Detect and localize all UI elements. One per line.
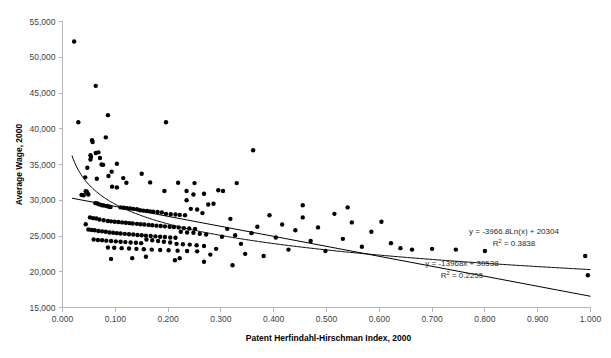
data-point	[168, 235, 172, 239]
data-point	[109, 169, 113, 173]
data-point	[139, 241, 143, 245]
x-tick-label: 0.500	[316, 314, 338, 324]
data-point	[350, 220, 354, 224]
data-point	[179, 230, 183, 234]
data-point	[135, 233, 139, 237]
data-point	[198, 232, 202, 236]
data-point	[280, 222, 284, 226]
data-point	[389, 241, 393, 245]
data-point	[243, 252, 247, 256]
data-point	[115, 185, 119, 189]
data-point	[76, 120, 80, 124]
y-tick-label: 15,000	[30, 303, 56, 313]
data-point	[158, 235, 162, 239]
x-tick-label: 0.200	[157, 314, 179, 324]
data-point	[369, 230, 373, 234]
data-point	[106, 174, 110, 178]
data-point	[109, 257, 113, 261]
x-tick-label: 0.700	[421, 314, 443, 324]
data-point	[308, 239, 312, 243]
data-point	[166, 248, 170, 252]
data-point	[211, 202, 215, 206]
data-point	[202, 192, 206, 196]
data-point	[233, 233, 237, 237]
data-point	[483, 249, 487, 253]
x-tick-label: 0.600	[369, 314, 391, 324]
data-point	[188, 242, 192, 246]
data-point	[208, 252, 212, 256]
data-point	[174, 242, 178, 246]
data-point	[184, 198, 188, 202]
data-point	[150, 238, 154, 242]
data-point	[124, 181, 128, 185]
data-point	[134, 241, 138, 245]
data-point	[221, 189, 225, 193]
data-point	[189, 207, 193, 211]
data-point	[88, 153, 92, 157]
data-point	[127, 232, 131, 236]
data-point	[261, 254, 265, 258]
data-point	[94, 84, 98, 88]
data-point	[96, 238, 100, 242]
data-point	[202, 260, 206, 264]
data-point	[345, 205, 349, 209]
log-fit-rsquared: R2 = 0.3838	[493, 238, 536, 248]
y-tick-label: 45,000	[30, 88, 56, 98]
y-tick-label: 30,000	[30, 195, 56, 205]
data-point	[134, 247, 138, 251]
data-point	[144, 237, 148, 241]
data-point	[301, 203, 305, 207]
x-tick-label: 0.400	[263, 314, 285, 324]
data-point	[430, 247, 434, 251]
data-point	[192, 181, 196, 185]
data-point	[144, 255, 148, 259]
data-point	[178, 213, 182, 217]
data-point	[169, 212, 173, 216]
data-point	[173, 258, 177, 262]
data-point	[191, 231, 195, 235]
data-point	[104, 238, 108, 242]
data-point	[156, 239, 160, 243]
data-point	[112, 246, 116, 250]
data-point	[91, 237, 95, 241]
x-tick-label: 0.900	[527, 314, 549, 324]
log-fit-annotation: y = -3966.8Ln(x) + 20304 R2 = 0.3838	[469, 227, 559, 248]
data-point	[239, 242, 243, 246]
linear-fit-equation-text: y = -13968x + 30538	[425, 259, 499, 268]
y-tick-label: 40,000	[30, 124, 56, 134]
log-fit-equation-text: y = -3966.8Ln(x) + 20304	[469, 227, 559, 236]
x-tick-label: 1.000	[580, 314, 602, 324]
data-point	[216, 188, 220, 192]
data-point	[142, 222, 146, 226]
y-tick-label: 55,000	[30, 17, 56, 27]
data-point	[106, 113, 110, 117]
data-point	[251, 148, 255, 152]
data-point	[164, 120, 168, 124]
data-point	[173, 236, 177, 240]
data-point	[175, 248, 179, 252]
data-point	[85, 166, 89, 170]
data-point	[194, 243, 198, 247]
data-point	[90, 140, 94, 144]
data-point	[98, 156, 102, 160]
data-point	[131, 221, 135, 225]
data-point	[140, 233, 144, 237]
data-point	[131, 232, 135, 236]
y-tick-label: 20,000	[30, 267, 56, 277]
data-point	[159, 224, 163, 228]
data-point	[140, 172, 144, 176]
data-point	[185, 230, 189, 234]
data-point	[163, 235, 167, 239]
x-tick-label: 0.300	[210, 314, 232, 324]
data-point	[104, 135, 108, 139]
data-point	[123, 232, 127, 236]
data-point	[255, 225, 259, 229]
data-point	[191, 192, 195, 196]
data-point	[230, 263, 234, 267]
x-tick-label: 0.000	[52, 314, 74, 324]
data-point	[148, 234, 152, 238]
x-tick-label: 0.800	[474, 314, 496, 324]
data-point	[106, 245, 110, 249]
axis-tick-labels: 15,00020,00025,00030,00035,00040,00045,0…	[30, 17, 602, 324]
data-point	[150, 223, 154, 227]
